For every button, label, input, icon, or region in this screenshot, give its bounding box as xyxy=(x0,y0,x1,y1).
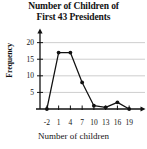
data-point xyxy=(45,107,49,111)
data-point xyxy=(92,104,96,108)
data-line xyxy=(47,53,129,109)
chart-title-line-1: Number of Children of xyxy=(0,1,147,12)
data-point xyxy=(127,107,131,111)
x-tick-labels: -214710131619 xyxy=(0,118,147,128)
chart-title-line-2: First 43 Presidents xyxy=(0,12,147,23)
chart-title: Number of Children of First 43 President… xyxy=(0,1,147,23)
data-point xyxy=(57,51,61,55)
y-axis xyxy=(37,29,42,110)
data-point xyxy=(80,81,84,85)
data-point xyxy=(116,100,120,104)
y-axis-arrow xyxy=(37,29,42,34)
y-tick-label: 15 xyxy=(20,55,34,64)
y-tick-label: 10 xyxy=(20,71,34,80)
x-tick-label: 19 xyxy=(122,118,136,127)
chart-container: Number of Children of First 43 President… xyxy=(0,0,147,149)
y-tick-label: 20 xyxy=(20,38,34,47)
data-point xyxy=(68,51,72,55)
data-point-markers xyxy=(45,51,131,111)
x-axis-arrow xyxy=(141,106,146,111)
data-point xyxy=(104,105,108,109)
x-axis-label: Number of children xyxy=(0,131,147,141)
y-tick-label: 5 xyxy=(20,88,34,97)
